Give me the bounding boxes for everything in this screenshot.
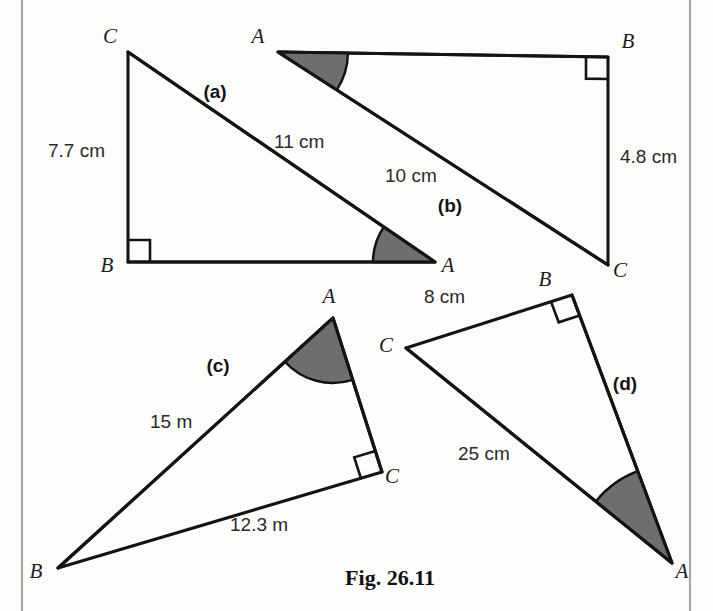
figure-caption: Fig. 26.11: [345, 565, 435, 590]
vertex-label-c-b: B: [30, 559, 43, 583]
vertex-label-d-a: A: [674, 559, 689, 583]
vertex-label-b-a: A: [250, 24, 265, 48]
vertex-label-b-b: B: [622, 29, 635, 53]
triangle-b: ABC4.8 cm10 cm(b): [250, 24, 677, 282]
vertex-label-c-a: A: [321, 284, 336, 308]
vertex-label-d-c: C: [379, 333, 394, 357]
part-label-d: (d): [613, 373, 637, 394]
shaded-angle-d: [596, 471, 672, 563]
dimension-label-c-side-ab: 15 m: [150, 411, 192, 432]
part-label-a: (a): [203, 81, 226, 102]
dimension-label-d-side-ca: 25 cm: [458, 443, 510, 464]
angle-arms-a: [128, 52, 435, 262]
vertex-label-d-b: B: [539, 267, 552, 291]
part-label-b: (b): [438, 195, 462, 216]
vertex-label-a-a: A: [440, 253, 455, 277]
triangles-root: ABC7.7 cm11 cm(a)ABC4.8 cm10 cm(b)ABC15 …: [30, 24, 689, 583]
triangle-d: ABC8 cm25 cm(d): [379, 267, 689, 583]
dimension-label-c-side-bc: 12.3 m: [230, 514, 288, 535]
dimension-label-a-side-ca: 11 cm: [274, 131, 324, 152]
right-angle-marker-a: [128, 240, 150, 262]
vertex-label-b-c: C: [613, 258, 628, 282]
vertex-label-a-c: C: [103, 24, 118, 48]
dimension-label-b-side-bc: 4.8 cm: [620, 146, 677, 167]
dimension-label-d-side-bc: 8 cm: [424, 286, 465, 307]
dimension-label-a-side-bc: 7.7 cm: [48, 140, 105, 161]
figure-page: ABC7.7 cm11 cm(a)ABC4.8 cm10 cm(b)ABC15 …: [0, 0, 713, 611]
angle-arms-b: [278, 52, 608, 265]
part-label-c: (c): [206, 355, 229, 376]
dimension-label-b-side-ac: 10 cm: [385, 165, 437, 186]
vertex-label-a-b: B: [101, 253, 114, 277]
geometry-figure: ABC7.7 cm11 cm(a)ABC4.8 cm10 cm(b)ABC15 …: [0, 0, 713, 611]
triangle-a: ABC7.7 cm11 cm(a): [48, 24, 455, 277]
triangle-c: ABC15 m12.3 m(c): [30, 284, 400, 583]
right-angle-marker-b: [586, 57, 608, 79]
vertex-label-c-c: C: [385, 464, 400, 488]
